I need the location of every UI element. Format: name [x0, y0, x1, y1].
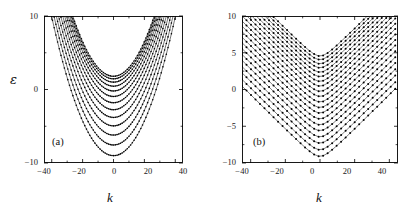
- panel-a-x-axis-label: k: [107, 190, 113, 206]
- panel-a-x-tick-0: 0: [98, 166, 130, 176]
- panel-b-x-axis-label: k: [316, 190, 322, 206]
- panel-a: ε k 10 0 −10 −40 −20 0 20 40 (a): [0, 0, 205, 222]
- panel-a-tag: (a): [52, 136, 64, 147]
- panel-b-y-tick-5: 5: [210, 48, 236, 58]
- panel-b-tag: (b): [253, 136, 265, 147]
- panel-b-plot: [205, 0, 417, 222]
- panel-b: k 10 5 0 −5 −10 −40 −20 0 20 40 (b): [205, 0, 417, 222]
- panel-a-x-tick-40: 40: [167, 166, 199, 176]
- panel-a-plot: [0, 0, 205, 222]
- panel-b-x-tick-40: 40: [366, 166, 398, 176]
- figure-two-panel-dispersion: ε k 10 0 −10 −40 −20 0 20 40 (a) k 10 5 …: [0, 0, 417, 222]
- panel-b-x-tick-minus40: −40: [226, 166, 258, 176]
- panel-b-y-tick-0: 0: [210, 84, 236, 94]
- panel-a-x-tick-20: 20: [132, 166, 164, 176]
- panel-a-x-tick-minus20: −20: [63, 166, 95, 176]
- panel-b-x-tick-20: 20: [331, 166, 363, 176]
- panel-a-y-tick-10: 10: [8, 11, 38, 21]
- panel-a-y-tick-0: 0: [8, 84, 38, 94]
- panel-b-x-tick-minus20: −20: [261, 166, 293, 176]
- panel-b-x-tick-0: 0: [296, 166, 328, 176]
- panel-a-x-tick-minus40: −40: [28, 166, 60, 176]
- panel-b-y-tick-minus5: −5: [210, 121, 236, 131]
- panel-b-y-tick-10: 10: [210, 11, 236, 21]
